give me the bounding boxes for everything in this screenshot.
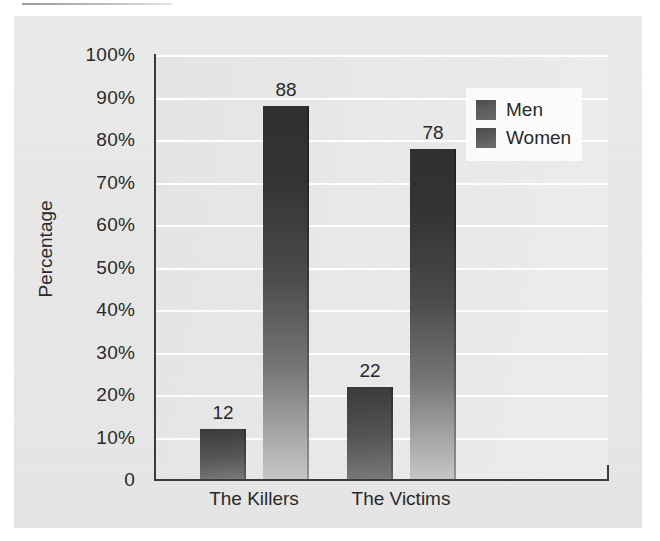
bar-killers-women: 88 (263, 106, 309, 480)
x-tick-label-victims: The Victims (352, 488, 451, 510)
y-tick-70: 70% (96, 172, 135, 194)
figure-panel: 12 88 22 78 100% 90% 80% 70% 60% (14, 16, 642, 528)
y-tick-60: 60% (96, 214, 135, 236)
y-tick-30: 30% (96, 342, 135, 364)
gridline-30 (155, 353, 608, 355)
x-axis-tick-labels: The Killers The Victims (155, 488, 608, 520)
legend-label-women: Women (506, 127, 571, 149)
gridline-50 (155, 268, 608, 270)
y-tick-0: 0 (124, 469, 135, 491)
y-tick-40: 40% (96, 299, 135, 321)
bar-victims-women: 78 (410, 149, 456, 481)
scan-artifact-line (22, 3, 172, 5)
y-tick-10: 10% (96, 427, 135, 449)
y-tick-90: 90% (96, 87, 135, 109)
y-tick-80: 80% (96, 129, 135, 151)
gridline-20 (155, 395, 608, 397)
legend-label-men: Men (506, 99, 543, 121)
gridline-60 (155, 225, 608, 227)
gridline-10 (155, 438, 608, 440)
y-axis-title: Percentage (35, 169, 57, 329)
y-tick-100: 100% (86, 44, 135, 66)
bar-chart: 12 88 22 78 100% 90% 80% 70% 60% (14, 16, 642, 528)
bar-value-killers-men: 12 (212, 402, 233, 424)
legend-item-men: Men (476, 96, 572, 124)
legend: Men Women (466, 88, 582, 161)
y-axis-tick-labels: 100% 90% 80% 70% 60% 50% 40% 30% 20% 10%… (14, 16, 147, 528)
women-color-swatch-icon (476, 128, 496, 148)
bar-victims-men: 22 (347, 387, 393, 481)
x-axis-line (154, 479, 609, 481)
gridline-100 (155, 55, 608, 57)
y-tick-20: 20% (96, 384, 135, 406)
bar-value-victims-men: 22 (359, 360, 380, 382)
y-axis-line (154, 54, 156, 481)
gridline-40 (155, 310, 608, 312)
bar-value-victims-women: 78 (422, 122, 443, 144)
x-tick-label-killers: The Killers (209, 488, 299, 510)
y-tick-50: 50% (96, 257, 135, 279)
bar-killers-men: 12 (200, 429, 246, 480)
legend-item-women: Women (476, 124, 572, 152)
x-axis-end-cap (607, 465, 609, 481)
bar-value-killers-women: 88 (275, 79, 296, 101)
gridline-70 (155, 183, 608, 185)
men-color-swatch-icon (476, 100, 496, 120)
